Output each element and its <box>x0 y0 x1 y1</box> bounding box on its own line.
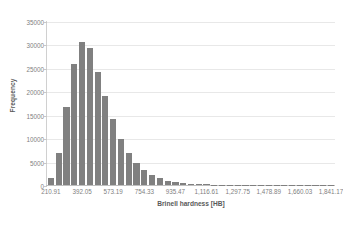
bar <box>172 182 178 185</box>
bar <box>328 185 334 186</box>
bar <box>157 178 163 185</box>
bar <box>87 48 93 185</box>
x-axis-tick-label: 1,297.75 <box>225 188 250 195</box>
bar <box>188 184 194 185</box>
y-axis-tick-label: 15000 <box>18 112 44 119</box>
y-axis-title-label: Frequency <box>10 78 17 112</box>
bar <box>110 119 116 185</box>
y-axis-tick-label: 5000 <box>18 159 44 166</box>
y-axis-tick-label: 10000 <box>18 136 44 143</box>
histogram-chart: Frequency 050001000015000200002500030000… <box>0 0 343 227</box>
x-axis-tick-label: 1,660.03 <box>288 188 313 195</box>
x-axis-tick-label: 1,116.61 <box>195 188 219 195</box>
x-axis-tick-label: 210.91 <box>41 188 60 195</box>
bar <box>219 185 225 186</box>
x-axis-tick-label: 573.19 <box>104 188 123 195</box>
bar <box>297 185 303 186</box>
bar <box>266 185 272 186</box>
x-axis-tick-label: 1,841.17 <box>319 188 343 195</box>
x-axis-tick-label: 935.47 <box>166 188 185 195</box>
y-axis-tick-labels: 05000100001500020000250003000035000 <box>18 22 44 186</box>
bar <box>126 153 132 185</box>
y-axis-tick-mark <box>44 69 47 70</box>
x-axis-tick-label: 1,478.89 <box>257 188 282 195</box>
bar <box>56 153 62 185</box>
y-axis-tick-mark <box>44 116 47 117</box>
bar <box>235 185 241 186</box>
bar-series <box>47 21 335 185</box>
y-axis-tick-mark <box>44 186 47 187</box>
bar <box>102 96 108 185</box>
x-axis-tick-labels: 210.91392.05573.19754.33935.471,116.611,… <box>47 188 335 200</box>
bar <box>312 185 318 186</box>
bar <box>320 185 326 186</box>
bar <box>180 183 186 185</box>
bar <box>242 185 248 186</box>
bar <box>141 170 147 185</box>
y-axis-tick-mark <box>44 45 47 46</box>
x-axis-title: Brinell hardness [HB] <box>47 200 335 207</box>
bar <box>203 184 209 185</box>
bar <box>274 185 280 186</box>
y-axis-tick-mark <box>44 92 47 93</box>
bar <box>289 185 295 186</box>
bar <box>211 185 217 186</box>
y-axis-tick-mark <box>44 139 47 140</box>
bar <box>149 175 155 185</box>
bar <box>118 139 124 185</box>
bar <box>258 185 264 186</box>
bar <box>196 184 202 185</box>
bar <box>63 107 69 185</box>
y-axis-tick-label: 25000 <box>18 65 44 72</box>
y-axis-tick-mark <box>44 22 47 23</box>
bar <box>95 72 101 185</box>
x-axis-tick-label: 754.33 <box>135 188 154 195</box>
bar <box>281 185 287 186</box>
bar <box>305 185 311 186</box>
bar <box>133 163 139 185</box>
x-axis-line <box>46 185 335 186</box>
bar <box>227 185 233 186</box>
y-axis-tick-label: 0 <box>18 183 44 190</box>
plot-area <box>47 22 335 186</box>
bar <box>250 185 256 186</box>
bar <box>165 181 171 185</box>
y-axis-tick-label: 35000 <box>18 19 44 26</box>
x-axis-tick-label: 392.05 <box>72 188 91 195</box>
y-axis-tick-label: 30000 <box>18 42 44 49</box>
bar <box>71 64 77 185</box>
gridline <box>47 186 335 187</box>
y-axis-tick-mark <box>44 163 47 164</box>
bar <box>48 178 54 185</box>
bar <box>79 42 85 185</box>
y-axis-tick-label: 20000 <box>18 89 44 96</box>
